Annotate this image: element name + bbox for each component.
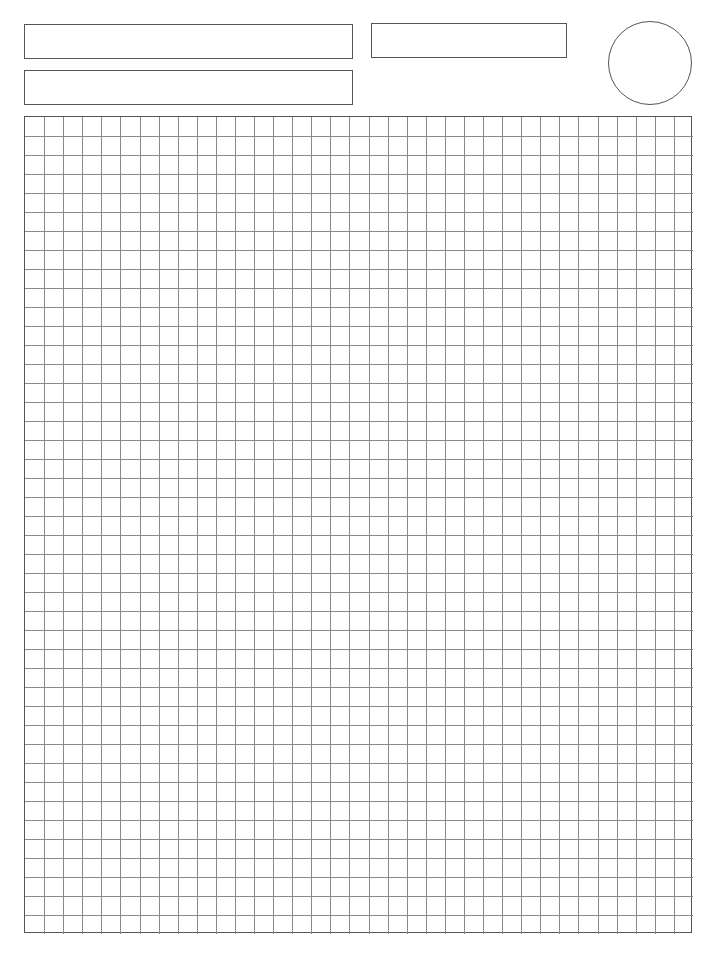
circle-field[interactable] (608, 21, 692, 105)
header-field-2[interactable] (24, 70, 353, 105)
grid-lines (25, 117, 693, 934)
graph-grid[interactable] (24, 116, 692, 933)
header-field-1[interactable] (24, 24, 353, 59)
header-field-3[interactable] (371, 23, 567, 58)
